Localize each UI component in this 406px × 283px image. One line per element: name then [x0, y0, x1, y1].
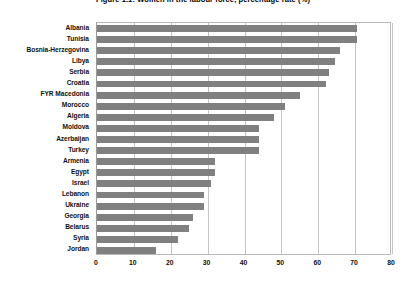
bar-row [97, 214, 390, 221]
bar-lebanon [97, 192, 204, 199]
bar-tunisia [97, 36, 357, 43]
value-tick-label: 20 [158, 258, 182, 268]
category-label: Egypt [71, 168, 89, 176]
category-label: Serbia [69, 68, 89, 76]
bar-row [97, 92, 390, 99]
bar-row [97, 36, 390, 43]
bar-row [97, 203, 390, 210]
bar-row [97, 25, 390, 32]
bar-row [97, 136, 390, 143]
value-tick-label: 50 [268, 258, 292, 268]
value-tick-label: 60 [305, 258, 329, 268]
category-label: Georgia [64, 212, 89, 220]
category-label: Azerbaijan [56, 135, 89, 143]
category-label: Croatia [67, 79, 89, 87]
bar-israel [97, 180, 211, 187]
bar-row [97, 247, 390, 254]
bar-chart-figure: Figure 1.1: Women in the labour force, p… [0, 0, 406, 283]
category-label: Moldova [63, 123, 89, 131]
category-label: Tunisia [67, 35, 89, 43]
category-label: Ukraine [65, 201, 89, 209]
bar-ukraine [97, 203, 204, 210]
bar-row [97, 158, 390, 165]
bar-libya [97, 58, 335, 65]
category-label: Syria [73, 234, 89, 242]
value-tick-label: 40 [232, 258, 256, 268]
bar-egypt [97, 169, 215, 176]
category-label: Bosnia-Herzegovina [27, 46, 90, 54]
value-tick-label: 70 [342, 258, 366, 268]
bar-row [97, 125, 390, 132]
category-label: Morocco [62, 101, 89, 109]
category-label: Belarus [65, 223, 89, 231]
bar-row [97, 225, 390, 232]
category-label: Libya [72, 57, 89, 65]
bar-row [97, 47, 390, 54]
value-tick-label: 80 [379, 258, 403, 268]
chart-title: Figure 1.1: Women in the labour force, p… [0, 0, 406, 4]
bar-turkey [97, 147, 259, 154]
bar-azerbaijan [97, 136, 259, 143]
category-label: Turkey [68, 146, 89, 154]
category-label: Albania [66, 24, 89, 32]
bar-albania [97, 25, 357, 32]
category-label: Israel [72, 179, 89, 187]
plot-area [96, 22, 391, 255]
category-label: Armenia [63, 157, 89, 165]
category-label: Lebanon [62, 190, 89, 198]
bar-row [97, 147, 390, 154]
bar-row [97, 114, 390, 121]
bar-moldova [97, 125, 259, 132]
bar-row [97, 58, 390, 65]
value-tick-label: 0 [84, 258, 108, 268]
value-tick-label: 30 [195, 258, 219, 268]
value-axis-labels: 01020304050607080 [0, 258, 406, 272]
category-label: FYR Macedonia [41, 90, 89, 98]
bar-syria [97, 236, 178, 243]
gridline-80 [392, 23, 393, 254]
bar-bosnia-herzegovina [97, 47, 340, 54]
bar-row [97, 81, 390, 88]
bar-row [97, 69, 390, 76]
bar-belarus [97, 225, 189, 232]
bar-row [97, 103, 390, 110]
bar-row [97, 180, 390, 187]
category-label: Algeria [67, 112, 89, 120]
bar-armenia [97, 158, 215, 165]
category-label: Jordan [67, 245, 89, 253]
bar-serbia [97, 69, 329, 76]
bar-croatia [97, 81, 326, 88]
bars-layer [97, 23, 390, 254]
bar-morocco [97, 103, 285, 110]
bar-georgia [97, 214, 193, 221]
category-axis-labels: AlbaniaTunisiaBosnia-HerzegovinaLibyaSer… [0, 22, 93, 255]
bar-algeria [97, 114, 274, 121]
bar-fyr-macedonia [97, 92, 300, 99]
bar-row [97, 192, 390, 199]
bar-jordan [97, 247, 156, 254]
bar-row [97, 236, 390, 243]
bar-row [97, 169, 390, 176]
value-tick-label: 10 [121, 258, 145, 268]
